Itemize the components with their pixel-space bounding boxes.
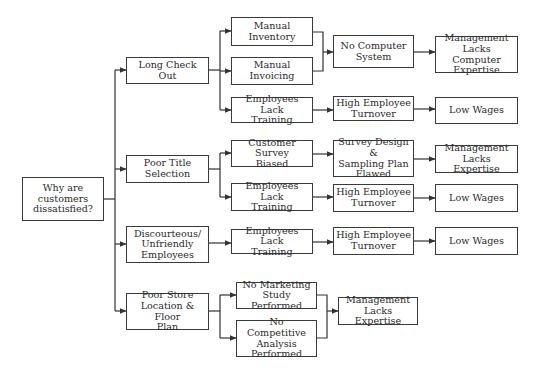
subcause-employees-lack-training-2: Employees Lack Training: [231, 183, 313, 211]
rootcause-high-employee-turnover-1: High Employee Turnover: [333, 96, 414, 121]
rootcause-low-wages-3: Low Wages: [435, 227, 518, 255]
cause-poor-store-location: Poor Store Location & Floor Plan: [126, 293, 209, 330]
subcause-no-competitive-analysis: No Competitive Analysis Performed: [236, 320, 317, 357]
subcause-employees-lack-training-1: Employees Lack Training: [231, 97, 313, 123]
subcause-customer-survey-biased: Customer Survey Biased: [231, 140, 313, 167]
cause-discourteous-employees: Discourteous/ Unfriendly Employees: [126, 226, 209, 263]
rootcause-mgmt-lacks-computer-expertise: Management Lacks Computer Expertise: [435, 36, 518, 73]
rootcause-low-wages-1: Low Wages: [435, 97, 518, 124]
rootcause-low-wages-2: Low Wages: [435, 184, 518, 212]
cause-poor-title-selection: Poor Title Selection: [126, 155, 209, 183]
cause-long-check-out: Long Check Out: [126, 57, 209, 84]
cause-effect-diagram: Why are customers dissatisfied? Long Che…: [0, 0, 537, 373]
rootcause-mgmt-lacks-expertise-1: Management Lacks Expertise: [435, 145, 518, 173]
subcause-employees-lack-training-3: Employees Lack Training: [231, 229, 313, 254]
subcause-manual-invoicing: Manual Invoicing: [231, 57, 313, 85]
subcause-no-marketing-study: No Marketing Study Performed: [236, 282, 317, 309]
rootcause-high-employee-turnover-2: High Employee Turnover: [333, 184, 414, 212]
rootcause-no-computer-system: No Computer System: [333, 35, 414, 68]
rootcause-survey-design-flawed: Survey Design & Sampling Plan Flawed: [333, 140, 414, 177]
rootcause-high-employee-turnover-3: High Employee Turnover: [333, 227, 414, 255]
root-question-box: Why are customers dissatisfied?: [22, 177, 104, 221]
rootcause-mgmt-lacks-expertise-2: Management Lacks Expertise: [338, 297, 418, 325]
subcause-manual-inventory: Manual Inventory: [231, 17, 313, 46]
